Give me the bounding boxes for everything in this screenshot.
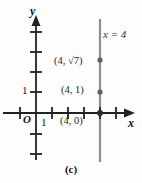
point-4-1: [97, 89, 102, 94]
y-axis-tick-label-1: 1: [22, 85, 28, 96]
point-4-sqrt7: [97, 57, 102, 62]
figure-caption: (c): [0, 163, 142, 175]
point-label-4-sqrt7: (4, √7): [54, 56, 83, 67]
coordinate-plane-figure: y x O 1 1 (4, √7) (4, 1) (4, 0) x = 4 (c…: [0, 0, 142, 183]
point-label-4-1: (4, 1): [61, 85, 84, 96]
origin-label: O: [23, 114, 31, 125]
vertical-line-equation-label: x = 4: [103, 29, 126, 40]
x-axis-tick-label-1: 1: [41, 117, 47, 128]
x-axis-label: x: [128, 117, 134, 129]
y-axis-label: y: [30, 5, 35, 17]
point-label-4-0: (4, 0): [60, 116, 83, 127]
point-4-0: [97, 110, 103, 116]
